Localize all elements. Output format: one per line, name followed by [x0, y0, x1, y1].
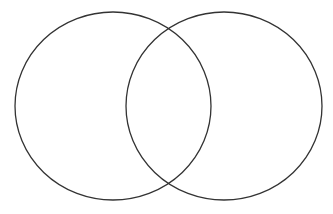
venn-diagram	[0, 0, 333, 214]
